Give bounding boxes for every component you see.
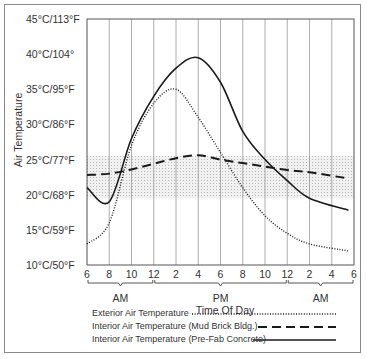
legend-prefab: Interior Air Temperature (Pre-Fab Concre… (92, 334, 266, 345)
period-brackets (88, 280, 353, 286)
vertical-gridlines (109, 19, 332, 265)
legend-exterior: Exterior Air Temperature (92, 308, 189, 319)
legend-mud-brick: Interior Air Temperature (Mud Brick Bldg… (92, 321, 257, 332)
plot-area (0, 0, 366, 359)
